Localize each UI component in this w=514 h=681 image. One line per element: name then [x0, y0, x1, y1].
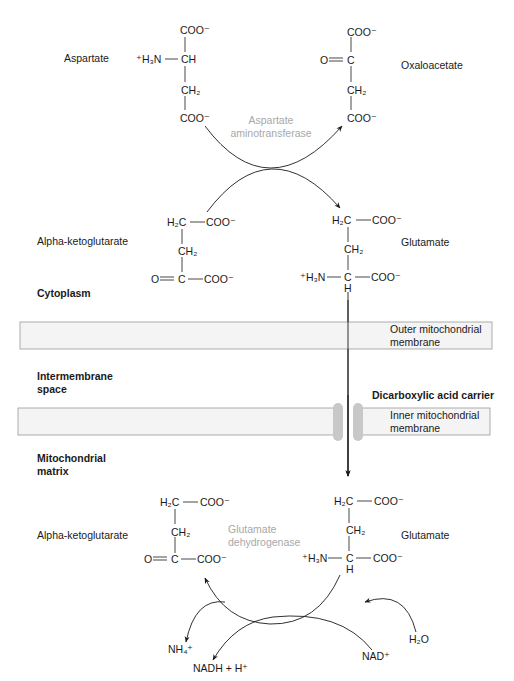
- akg-matrix-c: C: [171, 553, 179, 565]
- akg-cyto-top-carboxylate: COO⁻: [206, 216, 236, 228]
- akg-to-glutamate-arrow: [207, 169, 340, 212]
- intermembrane-space-label: Intermembrane space: [37, 370, 113, 396]
- akg-matrix-ch2: CH₂: [171, 526, 190, 538]
- aspartate-ch: CH: [181, 53, 196, 65]
- nadh-label: NADH + H⁺: [193, 662, 248, 674]
- glutamate-cyto-ch2: CH₂: [344, 243, 363, 255]
- akg-matrix-top-carboxylate: COO⁻: [200, 496, 230, 508]
- glutamate-matrix-h2c: H₂C: [334, 495, 353, 507]
- oxaloacetate-bottom-carboxylate: COO⁻: [347, 112, 377, 124]
- carrier-right: [353, 403, 363, 441]
- inner-membrane-left: [18, 408, 338, 435]
- oxaloacetate-keto-o: O: [320, 54, 328, 66]
- oxaloacetate-ch2: CH₂: [347, 84, 366, 96]
- akg-cyto-right-carboxylate: COO⁻: [204, 273, 234, 285]
- akg-matrix-label: Alpha-ketoglutarate: [37, 529, 128, 542]
- aspartate-bonds: [165, 37, 185, 110]
- akg-cyto-label: Alpha-ketoglutarate: [37, 235, 128, 248]
- akg-cyto-c: C: [178, 273, 186, 285]
- glutamate-cyto-h2c: H₂C: [332, 214, 351, 226]
- aspartate-bottom-carboxylate: COO⁻: [180, 112, 210, 124]
- glutamate-matrix-right-carboxylate: COO⁻: [373, 552, 403, 564]
- aspartate-ch2: CH₂: [181, 84, 200, 96]
- oxaloacetate-bonds: [329, 37, 351, 110]
- ammonium-label: NH₄⁺: [168, 643, 193, 655]
- cytoplasm-label: Cytoplasm: [37, 287, 91, 300]
- carrier-left: [333, 403, 343, 441]
- outer-membrane-label: Outer mitochondrial membrane: [390, 323, 482, 349]
- mitochondrial-matrix-label: Mitochondrial matrix: [37, 452, 106, 478]
- glutamate-cyto-right-carboxylate: COO⁻: [371, 271, 401, 283]
- nad-to-nadh-arrow: [213, 616, 372, 660]
- aspartate-top-carboxylate: COO⁻: [180, 24, 210, 36]
- aspartate-amine: ⁺H₃N: [136, 53, 161, 65]
- aspartate-aminotransferase-label: Aspartate aminotransferase: [226, 114, 316, 140]
- akg-matrix-right-carboxylate: COO⁻: [197, 553, 227, 565]
- glutamate-matrix-top-carboxylate: COO⁻: [374, 495, 404, 507]
- inner-membrane-label: Inner mitochondrial membrane: [390, 409, 479, 435]
- dicarboxylic-acid-carrier-label: Dicarboxylic acid carrier: [372, 389, 494, 402]
- akg-matrix-h2c: H₂C: [160, 496, 179, 508]
- akg-cyto-ch2: CH₂: [178, 245, 197, 257]
- glutamate-matrix-label: Glutamate: [401, 529, 449, 542]
- glutamate-matrix-h: H: [346, 563, 354, 575]
- glutamate-cyto-amine: ⁺H₃N: [300, 271, 325, 283]
- h2o-in-arrow: [365, 599, 416, 632]
- water-label: H₂O: [409, 633, 429, 645]
- akg-matrix-keto-o: O: [144, 553, 152, 565]
- glutamate-cyto-label: Glutamate: [401, 236, 449, 249]
- glutamate-matrix-amine: ⁺H₃N: [302, 552, 327, 564]
- glutamate-cyto-h: H: [344, 282, 352, 294]
- nad-label: NAD⁺: [362, 650, 390, 662]
- glutamate-matrix-ch2: CH₂: [346, 524, 365, 536]
- oxaloacetate-label: Oxaloacetate: [401, 59, 463, 72]
- oxaloacetate-c: C: [347, 54, 355, 66]
- nh4-out-arrow: [186, 602, 225, 642]
- oxaloacetate-top-carboxylate: COO⁻: [347, 26, 377, 38]
- aspartate-label: Aspartate: [64, 52, 109, 65]
- glutamate-cyto-top-carboxylate: COO⁻: [372, 214, 402, 226]
- akg-cyto-h2c: H₂C: [167, 216, 186, 228]
- akg-cyto-keto-o: O: [151, 273, 159, 285]
- glutamate-dehydrogenase-label: Glutamate dehydrogenase: [228, 523, 300, 549]
